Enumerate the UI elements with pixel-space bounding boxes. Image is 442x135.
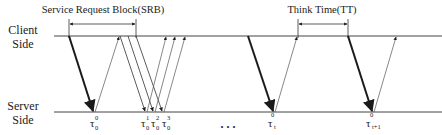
svg-text:0: 0 xyxy=(156,124,159,131)
response-arrow xyxy=(164,37,185,112)
svg-text:τ: τ xyxy=(366,117,371,129)
srb-label: Service Request Block(SRB) xyxy=(42,4,165,16)
svg-text:τ: τ xyxy=(268,117,273,129)
svg-text:2: 2 xyxy=(156,114,159,121)
request-arrow xyxy=(69,36,93,111)
response-arrow xyxy=(147,37,166,112)
svg-text:3: 3 xyxy=(167,114,170,121)
svg-text:Client: Client xyxy=(8,23,38,37)
svg-text:0: 0 xyxy=(95,124,98,131)
svg-text:Side: Side xyxy=(12,37,33,51)
client-side-label: Client Side xyxy=(8,23,38,51)
tau-label: τ 0 0 xyxy=(90,114,98,131)
server-side-label: Server Side xyxy=(7,99,38,127)
svg-text:1: 1 xyxy=(146,114,149,121)
svg-text:t: t xyxy=(274,123,276,130)
svg-text:0: 0 xyxy=(271,111,274,118)
tau-label: τ 3 0 xyxy=(162,114,170,131)
response-arrow xyxy=(95,37,119,112)
srb-bracket xyxy=(69,19,136,38)
svg-text:0: 0 xyxy=(95,114,98,121)
ellipsis: . . . xyxy=(221,117,236,131)
svg-text:Server: Server xyxy=(7,99,38,113)
request-arrows xyxy=(69,36,372,111)
request-arrow xyxy=(248,36,273,111)
tau-label: τ 2 0 xyxy=(151,114,159,131)
tau-label: τ 1 0 xyxy=(141,114,149,131)
tau-label: τ 0 t+1 xyxy=(366,111,381,130)
svg-text:0: 0 xyxy=(370,111,373,118)
think-time-label: Think Time(TT) xyxy=(287,4,357,16)
response-arrow xyxy=(155,37,175,112)
svg-text:0: 0 xyxy=(167,124,170,131)
svg-text:0: 0 xyxy=(146,124,149,131)
request-arrow xyxy=(120,36,145,111)
response-arrow xyxy=(275,37,297,112)
tau-label: τ 0 t xyxy=(268,111,276,130)
think-time-bracket xyxy=(298,19,348,38)
response-arrow xyxy=(374,37,396,112)
svg-text:Side: Side xyxy=(12,113,33,127)
svg-text:t+1: t+1 xyxy=(372,123,381,130)
request-arrow xyxy=(348,36,372,111)
client-server-timing-diagram: Client Side Server Side Service Request … xyxy=(0,0,442,135)
